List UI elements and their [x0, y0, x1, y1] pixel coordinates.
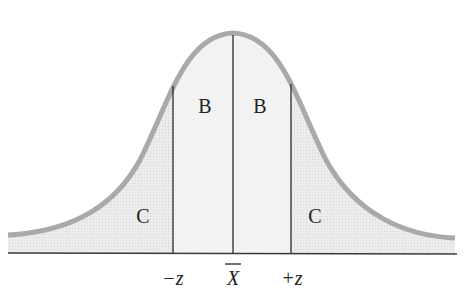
plus-z-axis-label: +z [281, 267, 302, 289]
right-tail-label: C [308, 205, 321, 227]
x-axis-baseline [8, 253, 457, 254]
left-center-label: B [198, 95, 211, 117]
normal-curve-diagram: C B B C −z X +z [0, 0, 466, 292]
left-tail-label: C [136, 205, 149, 227]
minus-z-axis-label: −z [162, 267, 183, 289]
right-center-label: B [253, 95, 266, 117]
center-region [173, 0, 291, 253]
mean-axis-label: X [226, 267, 240, 289]
